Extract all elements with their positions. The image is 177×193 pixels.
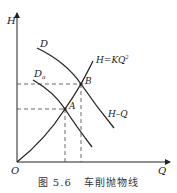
point-a-label: A: [68, 101, 76, 111]
figure-caption: 图 5.6 车削抛物线: [0, 174, 177, 189]
curve-da-label: Da: [33, 68, 46, 80]
h-axis-label: H: [6, 15, 16, 26]
figure-title: 车削抛物线: [84, 177, 139, 188]
point-b: [79, 82, 82, 85]
trimming-parabola-diagram: H Q O D Da H=KQ2 H–Q A B: [0, 0, 177, 175]
parabola-label: H=KQ2: [95, 54, 129, 65]
point-b-label: B: [84, 76, 92, 86]
hq-curve-label: H–Q: [107, 109, 128, 119]
curve-d-label: D: [39, 38, 48, 49]
parabola-label-sup: 2: [125, 54, 129, 60]
figure-number: 图 5.6: [38, 177, 72, 188]
curve-parabola: [17, 61, 93, 162]
curve-da-label-main: D: [33, 68, 42, 79]
curve-da-label-sub: a: [42, 73, 46, 80]
point-a: [63, 107, 66, 110]
parabola-label-main: H=KQ: [95, 55, 126, 65]
